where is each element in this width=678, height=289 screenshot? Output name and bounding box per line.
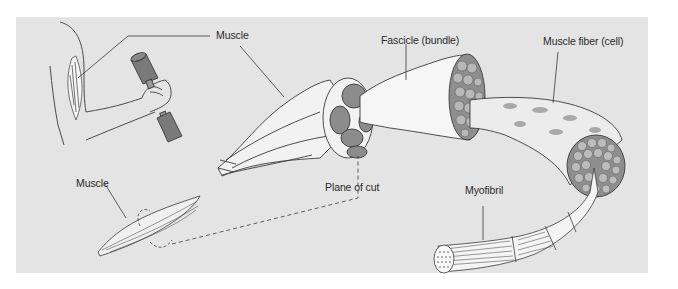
muscle-top-leader-a	[78, 36, 128, 78]
fascicle-illustration	[360, 54, 485, 140]
label-fascicle: Fascicle (bundle)	[381, 34, 459, 46]
muscle-fiber-leader	[553, 52, 558, 103]
bicep-muscle-icon	[68, 56, 82, 120]
label-muscle-fiber: Muscle fiber (cell)	[543, 35, 623, 47]
plane-of-cut-dashed-line	[172, 156, 358, 244]
label-muscle-bottom: Muscle	[76, 177, 109, 189]
small-muscle-illustration	[98, 196, 200, 256]
label-plane-of-cut: Plane of cut	[325, 181, 379, 193]
label-muscle-top: Muscle	[216, 29, 249, 41]
muscle-bundle-illustration	[218, 78, 373, 176]
muscle-bottom-leader	[105, 184, 126, 218]
muscle-top-leader-c	[240, 46, 284, 97]
muscle-fiber-illustration	[470, 97, 625, 197]
dumbbell-icon	[130, 51, 182, 142]
label-myofibril: Myofibril	[465, 184, 503, 196]
